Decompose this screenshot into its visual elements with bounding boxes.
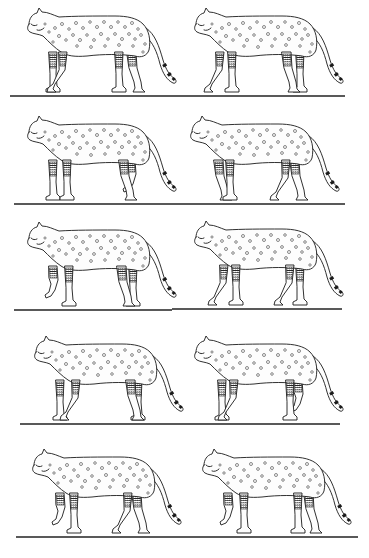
cheetah-frame-7 [35,336,183,420]
cheetah-frame-4 [191,116,339,200]
cheetah-frame-10 [203,449,351,533]
cheetah-frame-6 [195,221,343,305]
cheetah-frame-5 [28,222,176,306]
cheetah-frame-3 [28,116,176,200]
cheetah-frame-2 [195,8,343,92]
cheetah-frame-9 [33,449,181,533]
cheetah-frame-1 [28,8,176,92]
cheetah-gait-plate [0,0,369,558]
cheetah-frame-8 [195,336,343,420]
